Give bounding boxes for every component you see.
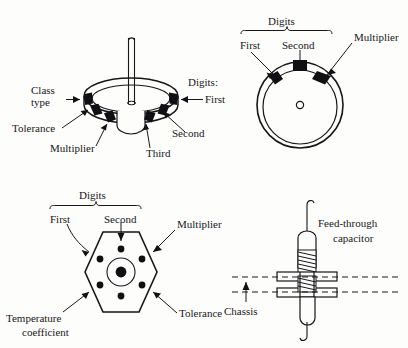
label-class-type-line2: type [31, 96, 50, 108]
label-temperature-line2: coefficient [22, 326, 69, 338]
label-digits: Digits [268, 15, 295, 27]
capacitor-colour-code-figure: Class type Tolerance Multiplier Third Se… [0, 0, 408, 348]
body-lower [300, 297, 315, 325]
figure-background [0, 0, 408, 348]
dot-tolerance [139, 282, 146, 289]
figure-canvas: Class type Tolerance Multiplier Third Se… [0, 0, 408, 348]
label-first: First [50, 213, 70, 225]
band-first-digit [169, 93, 178, 106]
label-third: Third [146, 147, 171, 159]
threaded-section-upper [298, 250, 316, 274]
hexagon-centre-dot [116, 267, 127, 278]
label-feed-through-line1: Feed-through [318, 217, 378, 229]
label-multiplier: Multiplier [354, 31, 399, 43]
label-class-type-line1: Class [31, 84, 55, 96]
label-first: First [205, 93, 225, 105]
dot-lower-centre [118, 293, 125, 300]
disc-bottom-stub [117, 111, 145, 134]
dot-first-digit [97, 256, 104, 263]
dot-temperature-coefficient [97, 282, 104, 289]
band-class-type [85, 93, 94, 106]
label-temperature-line1: Temperature [6, 312, 62, 324]
label-chassis: Chassis [224, 305, 258, 317]
label-tolerance: Tolerance [12, 122, 55, 134]
label-multiplier: Multiplier [50, 142, 95, 154]
dot-second-digit [118, 246, 125, 253]
dot-multiplier [139, 256, 146, 263]
label-first: First [240, 39, 260, 51]
label-second: Second [282, 39, 315, 51]
label-digits: Digits [79, 189, 106, 201]
label-second: Second [104, 213, 137, 225]
label-feed-through-line2: capacitor [333, 232, 374, 244]
label-digits: Digits: [188, 76, 218, 88]
label-tolerance: Tolerance [179, 307, 222, 319]
threaded-section-lower [298, 276, 316, 292]
label-multiplier: Multiplier [177, 218, 222, 230]
label-second: Second [172, 127, 205, 139]
